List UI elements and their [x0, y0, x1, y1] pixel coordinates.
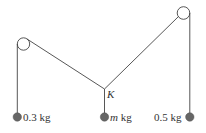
- pulley-diagram: K 0.3 kg m kg 0.5 kg: [0, 0, 206, 133]
- right-mass-label: 0.5 kg: [154, 111, 182, 123]
- left-diagonal-string: [27, 39, 105, 89]
- right-mass-icon: [186, 113, 194, 121]
- junction-label: K: [106, 88, 115, 100]
- middle-mass-icon: [100, 113, 108, 121]
- middle-mass-label: m kg: [110, 111, 132, 123]
- right-diagonal-string: [105, 17, 179, 90]
- left-mass-icon: [13, 113, 21, 121]
- left-mass-label: 0.3 kg: [23, 111, 51, 123]
- diagram-svg: K 0.3 kg m kg 0.5 kg: [0, 0, 206, 133]
- right-pulley-icon: [177, 7, 190, 20]
